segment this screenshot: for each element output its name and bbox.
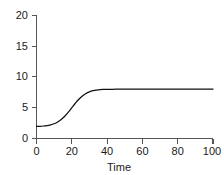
y-tick-label-5: 5 <box>22 101 28 113</box>
x-tick-label-60: 60 <box>136 145 148 157</box>
x-tick-label-40: 40 <box>101 145 113 157</box>
x-tick-label-80: 80 <box>172 145 184 157</box>
x-tick-label-0: 0 <box>33 145 39 157</box>
y-tick-label-10: 10 <box>16 70 28 82</box>
x-tick-label-20: 20 <box>66 145 78 157</box>
y-tick-label-20: 20 <box>16 9 28 21</box>
y-tick-label-0: 0 <box>22 132 28 144</box>
line-chart-plot: 0 5 10 15 20 0 20 40 60 80 100 Time <box>0 0 224 175</box>
chart-figure: 0 5 10 15 20 0 20 40 60 80 100 Time <box>0 0 224 175</box>
x-tick-label-100: 100 <box>203 145 221 157</box>
y-tick-label-15: 15 <box>16 40 28 52</box>
x-axis-title: Time <box>107 161 131 173</box>
